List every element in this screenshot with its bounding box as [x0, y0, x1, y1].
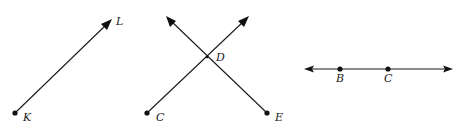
- label-k: K: [22, 111, 32, 124]
- label-b: B: [335, 72, 344, 85]
- point-k: [12, 110, 17, 115]
- geometry-diagram: K L C D E B C: [0, 0, 457, 130]
- point-d: [206, 56, 209, 59]
- ray-kl-figure: K L: [12, 15, 123, 124]
- intersecting-rays-figure: C D E: [144, 16, 283, 124]
- label-c2: C: [384, 72, 393, 85]
- label-l: L: [115, 15, 123, 28]
- arrowhead-icon: [166, 16, 176, 27]
- ray-ed-line: [171, 21, 267, 113]
- point-c: [144, 110, 149, 115]
- label-d: D: [215, 51, 225, 64]
- label-c: C: [156, 111, 165, 124]
- point-b: [337, 66, 342, 71]
- ray-cd-line: [147, 21, 244, 113]
- point-c2: [385, 66, 390, 71]
- line-bc-figure: B C: [304, 66, 453, 86]
- ray-kl-line: [15, 24, 107, 113]
- label-e: E: [274, 111, 283, 124]
- point-e: [264, 110, 269, 115]
